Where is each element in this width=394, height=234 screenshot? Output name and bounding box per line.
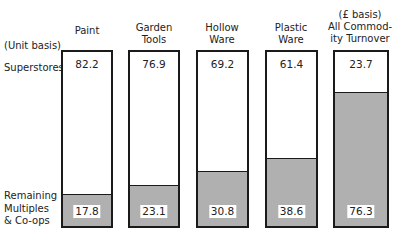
- superstores-value: 23.7: [335, 58, 387, 70]
- superstores-value: 69.2: [198, 58, 247, 70]
- bar-paint: 82.2 17.8: [61, 50, 113, 228]
- remaining-segment: 76.3: [335, 92, 387, 226]
- category-header-paint: Paint: [61, 25, 113, 37]
- superstores-label: Superstores: [4, 62, 64, 75]
- category-header-plastic-ware: Plastic Ware: [263, 22, 319, 46]
- header-line: (£ basis): [326, 9, 394, 21]
- bar-hollow-ware: 69.2 30.8: [196, 50, 249, 228]
- superstores-value: 82.2: [63, 58, 111, 70]
- header-line: Paint: [61, 25, 113, 37]
- header-line: All Commod-: [326, 21, 394, 33]
- header-line: Plastic: [263, 22, 319, 34]
- header-line: Tools: [126, 34, 182, 46]
- category-header-garden-tools: Garden Tools: [126, 22, 182, 46]
- remaining-segment: 17.8: [63, 194, 111, 226]
- header-line: Ware: [263, 34, 319, 46]
- header-line: Ware: [194, 34, 250, 46]
- superstores-value: 61.4: [267, 58, 316, 70]
- bar-plastic-ware: 61.4 38.6: [265, 50, 318, 228]
- remaining-segment: 30.8: [198, 171, 247, 226]
- header-line: Hollow: [194, 22, 250, 34]
- superstores-value: 76.9: [130, 58, 178, 70]
- bar-all-commodity: 23.7 76.3: [333, 50, 389, 228]
- remaining-value: 17.8: [73, 205, 100, 218]
- remaining-label-line1: Remaining: [4, 190, 57, 203]
- remaining-value: 76.3: [347, 205, 374, 218]
- remaining-label-line2: Multiples: [4, 203, 57, 216]
- remaining-value: 30.8: [209, 205, 236, 218]
- remaining-label: Remaining Multiples & Co-ops: [4, 190, 57, 228]
- header-line: ity Turnover: [326, 33, 394, 45]
- remaining-segment: 23.1: [130, 185, 178, 226]
- basis-label: (Unit basis): [4, 40, 61, 53]
- bar-garden-tools: 76.9 23.1: [128, 50, 180, 228]
- category-header-hollow-ware: Hollow Ware: [194, 22, 250, 46]
- remaining-value: 23.1: [140, 205, 167, 218]
- remaining-label-line3: & Co-ops: [4, 215, 57, 228]
- header-line: Garden: [126, 22, 182, 34]
- category-header-all-commodity: (£ basis) All Commod- ity Turnover: [326, 9, 394, 45]
- remaining-segment: 38.6: [267, 158, 316, 226]
- remaining-value: 38.6: [278, 205, 305, 218]
